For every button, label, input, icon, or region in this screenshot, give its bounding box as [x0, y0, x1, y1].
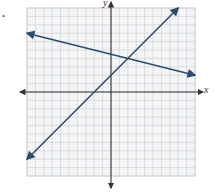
coordinate-plane: [0, 0, 214, 192]
x-axis-label: x: [204, 84, 208, 95]
y-axis-label: y: [103, 0, 107, 8]
